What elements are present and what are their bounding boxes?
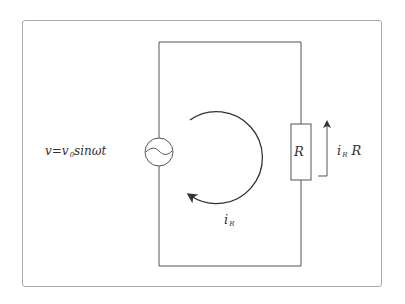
resistor-label: R <box>294 144 304 159</box>
circuit-wires <box>159 42 301 266</box>
voltage-arrow-icon <box>318 124 327 176</box>
current-label: iR <box>224 212 234 228</box>
source-voltage-equation: v=v0sinωt <box>45 144 106 159</box>
resistor-voltage-label: iR R <box>337 143 361 159</box>
ac-source-icon <box>145 138 173 166</box>
current-loop-arrow-icon <box>190 112 262 204</box>
